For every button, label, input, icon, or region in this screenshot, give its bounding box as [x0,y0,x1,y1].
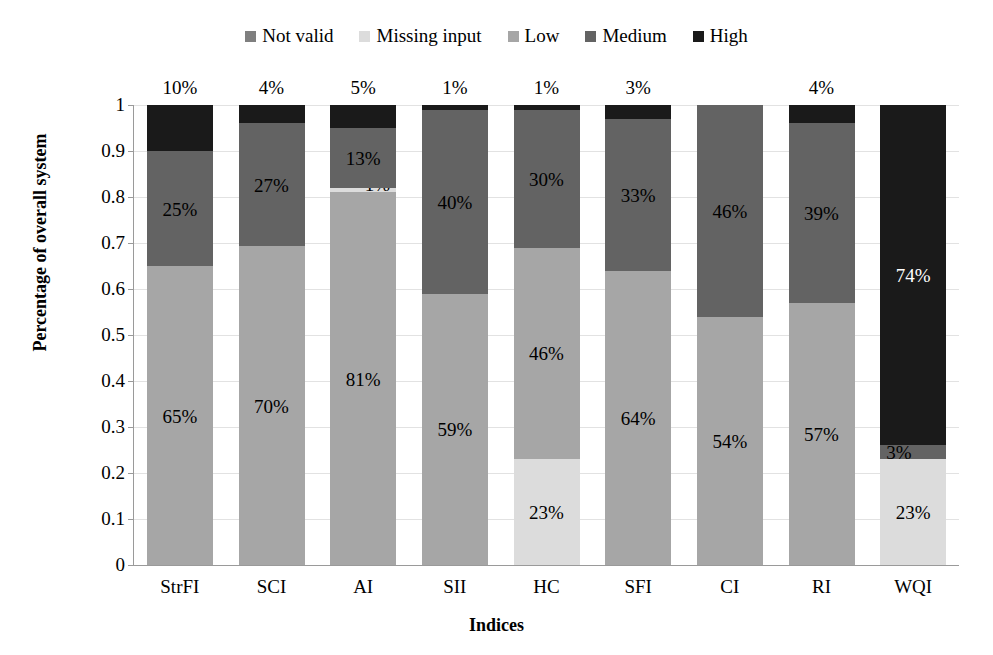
y-axis-tick-label: 0.1 [101,508,125,530]
bar-segment-low[interactable]: 70% [239,246,305,565]
bar-segment-high[interactable] [514,105,580,110]
bar-segment-value-label: 40% [422,192,488,211]
bar-segment-low[interactable]: 81% [330,192,396,565]
bar-segment-high[interactable] [422,105,488,110]
legend-item-not-valid[interactable]: Not valid [245,26,333,45]
bar-segment-value-label: 23% [514,503,580,522]
bar-column-sci[interactable]: 70%27%4%SCI [239,105,305,565]
y-axis-title: Percentage of overall system [30,43,51,443]
bar-segment-value-label: 59% [422,420,488,439]
bar-segment-medium[interactable]: 30% [514,110,580,248]
bar-segment-low[interactable]: 59% [422,294,488,565]
bar-segment-high[interactable] [147,105,213,151]
bar-segment-value-label: 23% [880,503,946,522]
y-axis-tick-label: 0.5 [101,324,125,346]
bar-segment-low[interactable]: 54% [697,317,763,565]
legend-swatch-icon [585,31,596,42]
bar-segment-high[interactable] [239,105,305,123]
bar-column-ci[interactable]: 54%46%CI [697,105,763,565]
bar-segment-value-label: 64% [605,408,671,427]
x-axis-tick-label-sii: SII [408,576,502,598]
bar-stack: 23%46%30% [514,105,580,565]
legend-label: Missing input [376,26,481,45]
legend-item-missing-input[interactable]: Missing input [359,26,481,45]
bar-segment-missing-input[interactable]: 23% [880,459,946,565]
bar-segment-low[interactable]: 57% [789,303,855,565]
y-axis-tick-label: 0.7 [101,232,125,254]
bar-column-sfi[interactable]: 64%33%3%SFI [605,105,671,565]
bar-segment-medium[interactable]: 13% [330,128,396,188]
bar-top-value-label: 1% [514,77,580,99]
bar-top-value-label: 1% [422,77,488,99]
y-axis-tick-label: 0.3 [101,416,125,438]
bar-stack: 70%27% [239,105,305,565]
legend-item-high[interactable]: High [693,26,748,45]
y-axis-tick-label: 0.4 [101,370,125,392]
bar-column-ri[interactable]: 57%39%4%RI [789,105,855,565]
bar-segment-medium[interactable]: 27% [239,123,305,246]
y-axis-tick-label: 0.2 [101,462,125,484]
bar-segment-medium[interactable]: 39% [789,123,855,302]
legend-swatch-icon [245,31,256,42]
y-axis-tick-label: 0.6 [101,278,125,300]
y-axis-tick [128,565,134,566]
bar-segment-high[interactable]: 74% [880,105,946,445]
bar-segment-value-label: 13% [330,148,396,167]
bar-segment-high[interactable] [330,105,396,128]
legend-item-low[interactable]: Low [508,26,560,45]
bar-segment-value-label: 39% [789,204,855,223]
bar-segment-low[interactable]: 65% [147,266,213,565]
x-axis-tick-label-sfi: SFI [591,576,685,598]
legend-label: High [710,26,748,45]
bar-stack: 65%25% [147,105,213,565]
bar-column-sii[interactable]: 59%40%1%SII [422,105,488,565]
bar-series-container: 65%25%10%StrFI70%27%4%SCI81%1%13%5%AI59%… [134,105,959,565]
bar-segment-value-label: 3% [880,443,946,462]
bar-stack: 54%46% [697,105,763,565]
legend-label: Not valid [262,26,333,45]
bar-column-hc[interactable]: 23%46%30%1%HC [514,105,580,565]
bar-segment-low[interactable]: 46% [514,248,580,460]
bar-column-strfi[interactable]: 65%25%10%StrFI [147,105,213,565]
bar-segment-high[interactable] [605,105,671,119]
x-axis-tick-label-ai: AI [316,576,410,598]
bar-segment-medium[interactable]: 25% [147,151,213,266]
bar-segment-value-label: 33% [605,185,671,204]
bar-segment-value-label: 70% [239,396,305,415]
bar-segment-value-label: 46% [514,344,580,363]
bar-segment-high[interactable] [789,105,855,123]
bar-segment-medium[interactable]: 46% [697,105,763,317]
chart-legend: Not validMissing inputLowMediumHigh [0,26,993,45]
x-axis-tick-label-ci: CI [683,576,777,598]
bar-stack: 23%3%74% [880,105,946,565]
bar-segment-medium[interactable]: 3% [880,445,946,459]
bar-stack: 57%39% [789,105,855,565]
bar-stack: 81%1%13% [330,105,396,565]
bar-top-value-label: 4% [789,77,855,99]
bar-segment-medium[interactable]: 33% [605,119,671,271]
legend-label: Medium [602,26,666,45]
bar-segment-medium[interactable]: 40% [422,110,488,294]
bar-top-value-label: 5% [330,77,396,99]
x-axis-title: Indices [0,615,993,636]
legend-label: Low [525,26,560,45]
y-axis-tick-label: 0.9 [101,140,125,162]
bar-segment-value-label: 81% [330,369,396,388]
x-axis-tick-label-sci: SCI [225,576,319,598]
y-axis-tick-label: 0 [116,554,126,576]
bar-stack: 64%33% [605,105,671,565]
bar-segment-missing-input[interactable]: 1% [330,188,396,193]
bar-segment-low[interactable]: 64% [605,271,671,565]
legend-swatch-icon [359,31,370,42]
bar-segment-missing-input[interactable]: 23% [514,459,580,565]
legend-swatch-icon [693,31,704,42]
y-axis-tick-label: 0.8 [101,186,125,208]
plot-area: 00.10.20.30.40.50.60.70.80.91 65%25%10%S… [133,105,959,566]
legend-item-medium[interactable]: Medium [585,26,666,45]
bar-segment-value-label: 57% [789,424,855,443]
bar-column-ai[interactable]: 81%1%13%5%AI [330,105,396,565]
bar-top-value-label: 3% [605,77,671,99]
bar-segment-value-label: 46% [697,201,763,220]
bar-segment-value-label: 65% [147,406,213,425]
bar-column-wqi[interactable]: 23%3%74%WQI [880,105,946,565]
